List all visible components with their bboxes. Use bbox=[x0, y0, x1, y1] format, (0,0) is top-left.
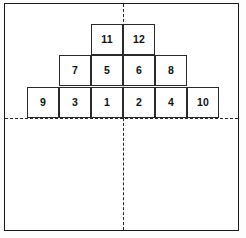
block-6: 6 bbox=[123, 55, 155, 86]
block-5: 5 bbox=[91, 55, 123, 86]
block-label: 4 bbox=[168, 97, 174, 108]
block-label: 5 bbox=[104, 65, 110, 76]
block-label: 12 bbox=[133, 34, 145, 45]
block-2: 2 bbox=[123, 87, 155, 118]
block-label: 9 bbox=[40, 97, 46, 108]
figure-canvas: 11 12 7 5 6 8 9 3 1 2 4 10 bbox=[0, 0, 246, 238]
block-3: 3 bbox=[59, 87, 91, 118]
block-10: 10 bbox=[187, 87, 219, 118]
block-label: 10 bbox=[197, 97, 209, 108]
block-label: 1 bbox=[104, 97, 110, 108]
block-12: 12 bbox=[123, 24, 155, 55]
block-1: 1 bbox=[91, 87, 123, 118]
block-11: 11 bbox=[91, 24, 123, 55]
block-label: 3 bbox=[72, 97, 78, 108]
block-4: 4 bbox=[155, 87, 187, 118]
block-label: 6 bbox=[136, 65, 142, 76]
block-label: 8 bbox=[168, 65, 174, 76]
block-7: 7 bbox=[59, 55, 91, 86]
block-label: 11 bbox=[101, 34, 113, 45]
block-label: 2 bbox=[136, 97, 142, 108]
block-label: 7 bbox=[72, 65, 78, 76]
block-9: 9 bbox=[27, 87, 59, 118]
block-8: 8 bbox=[155, 55, 187, 86]
